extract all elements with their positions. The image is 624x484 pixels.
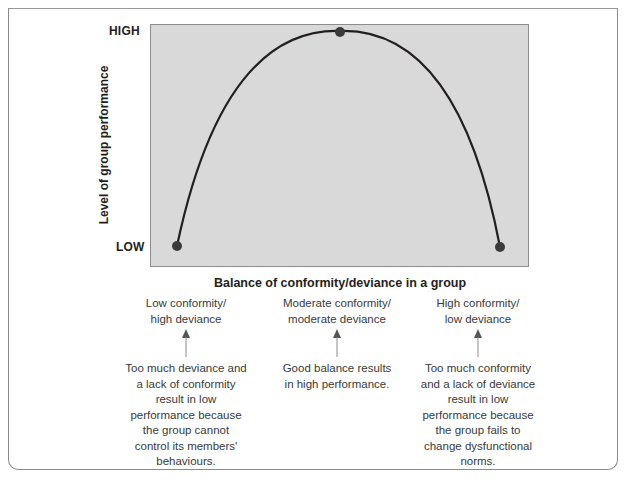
annotation-body-line: Too much deviance and <box>106 361 266 377</box>
x-axis-label: Balance of conformity/deviance in a grou… <box>214 276 466 290</box>
annotation-body-line: the group fails to <box>398 423 558 439</box>
annotation-body-line: Too much conformity <box>398 361 558 377</box>
annotation-heading-line: High conformity/ <box>398 296 558 312</box>
annotation-body-line: behaviours. <box>106 454 266 470</box>
annotation-heading-line: moderate deviance <box>257 312 417 328</box>
y-tick-low: LOW <box>116 240 145 254</box>
annotation-body-line: result in low <box>106 392 266 408</box>
annotation-body-line: norms. <box>398 454 558 470</box>
annotation-body-line: the group cannot <box>106 423 266 439</box>
annotation-moderate-conformity: Moderate conformity/ moderate deviance G… <box>257 296 417 392</box>
annotation-heading-line: low deviance <box>398 312 558 328</box>
point-low-right <box>495 242 505 252</box>
annotation-body-line: control its members' <box>106 439 266 455</box>
y-tick-high: HIGH <box>109 24 140 38</box>
annotation-body-line: result in low <box>398 392 558 408</box>
annotation-high-conformity: High conformity/ low deviance Too much c… <box>398 296 558 470</box>
curve-path <box>177 31 500 247</box>
up-arrow-icon <box>332 329 342 357</box>
annotation-body-line: and a lack of deviance <box>398 377 558 393</box>
point-peak <box>335 27 345 37</box>
annotation-low-conformity: Low conformity/ high deviance Too much d… <box>106 296 266 470</box>
point-low-left <box>172 241 182 251</box>
up-arrow-icon <box>473 329 483 357</box>
up-arrow-icon <box>181 329 191 357</box>
annotation-body-line: performance because <box>106 408 266 424</box>
plot-area <box>150 24 529 267</box>
annotation-heading-line: Low conformity/ <box>106 296 266 312</box>
annotation-body-line: performance because <box>398 408 558 424</box>
annotation-heading-line: Moderate conformity/ <box>257 296 417 312</box>
y-axis-label: Level of group performance <box>97 66 111 225</box>
annotation-body-line: change dysfunctional <box>398 439 558 455</box>
annotation-heading-line: high deviance <box>106 312 266 328</box>
annotation-body-line: Good balance results <box>257 361 417 377</box>
annotation-body-line: in high performance. <box>257 377 417 393</box>
annotation-body-line: a lack of conformity <box>106 377 266 393</box>
performance-curve <box>151 25 530 268</box>
